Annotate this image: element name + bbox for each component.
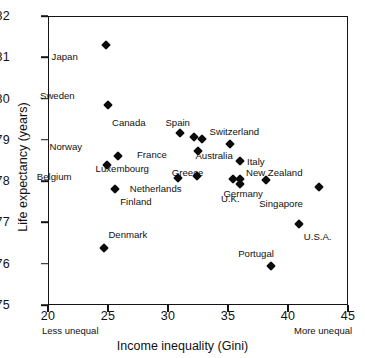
- data-point-label: Japan: [52, 52, 78, 62]
- data-point-label: Italy: [247, 157, 265, 167]
- data-point-label: U.S.A.: [304, 232, 332, 242]
- y-tick-label: 81: [0, 50, 10, 64]
- data-point-label: Spain: [165, 118, 190, 128]
- data-point-label: Switzerland: [210, 127, 260, 137]
- x-tick-mark: [107, 305, 109, 312]
- data-point-label: France: [137, 150, 167, 160]
- data-point-label: Singapore: [259, 199, 303, 209]
- x-tick-mark: [287, 305, 289, 312]
- y-tick-label: 78: [0, 174, 10, 188]
- x-axis-title: Income inequality (Gini): [0, 339, 365, 353]
- data-point-label: Portugal: [238, 249, 274, 259]
- y-tick-label: 82: [0, 9, 10, 23]
- y-tick-mark: [41, 139, 48, 141]
- data-point-label: Sweden: [40, 91, 75, 101]
- y-tick-label: 80: [0, 92, 10, 106]
- data-point-label: Canada: [112, 118, 146, 128]
- data-point-label: Denmark: [108, 230, 147, 240]
- data-point-label: Netherlands: [130, 184, 182, 194]
- x-tick-mark: [167, 305, 169, 312]
- y-tick-label: 77: [0, 215, 10, 229]
- x-tick-mark: [347, 305, 349, 312]
- data-point-label: Finland: [120, 197, 151, 207]
- data-point-label: Luxembourg: [96, 164, 149, 174]
- data-point-label: Norway: [50, 142, 83, 152]
- x-axis-left-note: Less unequal: [42, 325, 99, 336]
- data-point-label: New Zealand: [246, 168, 303, 178]
- y-tick-label: 79: [0, 133, 10, 147]
- x-tick-mark: [47, 305, 49, 312]
- x-axis-right-note: More unequal: [294, 325, 352, 336]
- data-point-label: Germany: [223, 189, 262, 199]
- x-tick-mark: [227, 305, 229, 312]
- data-point-label: Belgium: [37, 172, 72, 182]
- y-tick-label: 76: [0, 257, 10, 271]
- scatter-plot-figure: 7576777879808182 202530354045 Life expec…: [0, 0, 365, 358]
- y-tick-mark: [41, 222, 48, 224]
- y-tick-mark: [41, 56, 48, 58]
- y-tick-mark: [41, 263, 48, 265]
- y-tick-label: 75: [0, 298, 10, 312]
- y-tick-mark: [41, 15, 48, 17]
- y-axis-title: Life expectancy (years): [16, 52, 30, 282]
